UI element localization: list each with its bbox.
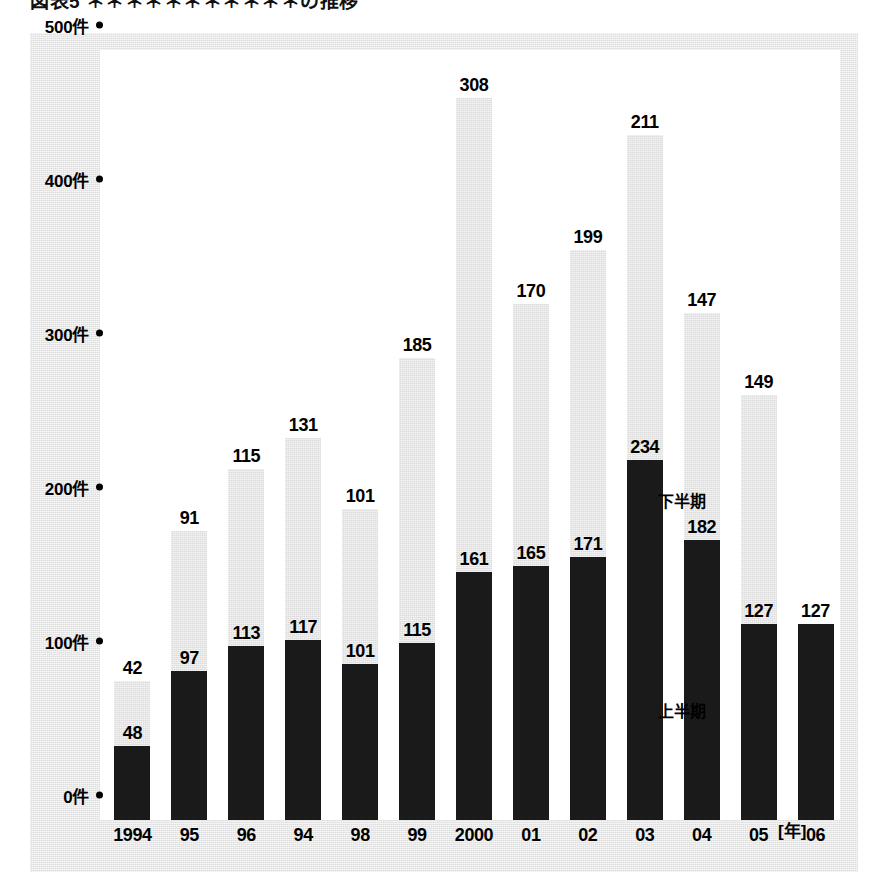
bar-segment-first-half[interactable]: 127	[741, 624, 777, 820]
y-axis-tick-label: 200件	[45, 475, 89, 500]
bar-segment-first-half[interactable]: 161	[456, 572, 492, 820]
bar-group[interactable]: 3081612000	[456, 98, 492, 820]
bar-group[interactable]: 10110198	[342, 509, 378, 820]
bar-value-second-half: 308	[460, 75, 489, 96]
bar-segment-second-half[interactable]: 211	[627, 135, 663, 460]
bar-segment-second-half[interactable]: 308	[456, 98, 492, 572]
bar-value-first-half: 127	[801, 601, 830, 622]
bar-value-first-half: 171	[573, 534, 602, 555]
x-axis-tick-label: 98	[351, 825, 370, 846]
bar-series-container: 4248199491979511511396131117941011019818…	[100, 50, 840, 820]
y-axis-tick: 200件	[45, 475, 100, 500]
chart-frame: 0件100件200件300件400件500件 42481994919795115…	[30, 33, 858, 872]
bar-group[interactable]: 17016501	[513, 304, 549, 820]
bar-group[interactable]: 42481994	[114, 681, 150, 820]
x-axis-tick-label: 95	[180, 825, 199, 846]
bar-segment-second-half[interactable]: 131	[285, 438, 321, 640]
bar-segment-first-half[interactable]: 113	[228, 646, 264, 820]
bar-value-second-half: 42	[123, 658, 142, 679]
x-axis-tick-label: 02	[578, 825, 597, 846]
x-axis-tick-label: 03	[635, 825, 654, 846]
y-axis-tick-label: 500件	[45, 13, 89, 38]
y-axis-tick-label: 100件	[45, 629, 89, 654]
bar-value-second-half: 199	[573, 227, 602, 248]
legend-label-second-half: 下半期	[658, 488, 706, 512]
x-axis-tick-label: 99	[407, 825, 426, 846]
x-axis-tick-label: 94	[294, 825, 313, 846]
bar-value-first-half: 161	[460, 549, 489, 570]
bar-group[interactable]: 12706	[798, 624, 834, 820]
bar-group[interactable]: 919795	[171, 530, 207, 820]
y-axis-tick-label: 0件	[63, 783, 89, 808]
bar-value-first-half: 113	[232, 623, 260, 644]
bar-value-second-half: 147	[687, 290, 716, 311]
bar-value-first-half: 182	[687, 517, 716, 538]
x-axis-unit-label: [年]	[778, 817, 806, 842]
bar-segment-first-half[interactable]: 101	[342, 664, 378, 820]
bar-segment-second-half[interactable]: 185	[399, 358, 435, 643]
bar-segment-second-half[interactable]: 170	[513, 304, 549, 566]
bar-group[interactable]: 13111794	[285, 438, 321, 820]
bar-value-first-half: 48	[123, 723, 142, 744]
bar-segment-first-half[interactable]: 117	[285, 640, 321, 820]
bar-group[interactable]: 19917102	[570, 250, 606, 820]
x-axis-tick-label: 96	[237, 825, 256, 846]
bar-group[interactable]: 11511396	[228, 469, 264, 820]
bar-value-second-half: 211	[631, 112, 659, 133]
bar-segment-first-half[interactable]: 182	[684, 540, 720, 820]
y-axis-tick: 400件	[45, 167, 100, 192]
bar-value-second-half: 170	[517, 281, 546, 302]
y-axis-tick: 0件	[63, 783, 100, 808]
bar-group[interactable]: 14912705	[741, 395, 777, 820]
bar-segment-first-half[interactable]: 234	[627, 460, 663, 820]
bar-group[interactable]: 18511599	[399, 358, 435, 820]
bar-value-second-half: 149	[744, 372, 773, 393]
bar-value-second-half: 91	[180, 508, 199, 529]
bar-group[interactable]: 14718204	[684, 313, 720, 820]
bar-segment-first-half[interactable]: 97	[171, 671, 207, 820]
y-axis-tick: 300件	[45, 321, 100, 346]
bar-value-first-half: 127	[744, 601, 773, 622]
x-axis-tick-label: 04	[692, 825, 711, 846]
bar-segment-first-half[interactable]: 165	[513, 566, 549, 820]
bar-segment-first-half[interactable]: 115	[399, 643, 435, 820]
x-axis-tick-label: 01	[521, 825, 540, 846]
bar-value-first-half: 97	[180, 648, 199, 669]
bar-value-second-half: 115	[232, 446, 260, 467]
y-axis-tick-label: 300件	[45, 321, 89, 346]
y-axis-tick: 500件	[45, 13, 100, 38]
x-axis-tick-label: 1994	[113, 825, 151, 846]
bar-segment-second-half[interactable]: 115	[228, 469, 264, 646]
x-axis-tick-label: 2000	[455, 825, 493, 846]
page-title: 図表5 ＊＊＊＊＊＊＊＊＊＊＊の推移	[30, 0, 550, 12]
x-axis-tick-label: 05	[749, 825, 768, 846]
bar-value-first-half: 115	[403, 620, 431, 641]
x-axis-tick-label: 06	[806, 825, 825, 846]
bar-value-second-half: 185	[403, 335, 432, 356]
bar-value-first-half: 234	[630, 437, 659, 458]
plot-area: 0件100件200件300件400件500件 42481994919795115…	[100, 50, 840, 820]
bar-segment-second-half[interactable]: 149	[741, 395, 777, 624]
y-axis-tick-label: 400件	[45, 167, 89, 192]
bar-segment-first-half[interactable]: 171	[570, 557, 606, 820]
bar-value-first-half: 101	[346, 641, 375, 662]
bar-value-second-half: 131	[289, 415, 318, 436]
bar-segment-second-half[interactable]: 199	[570, 250, 606, 556]
bar-value-second-half: 101	[346, 486, 375, 507]
legend-label-first-half: 上半期	[658, 698, 706, 722]
bar-value-first-half: 165	[517, 543, 546, 564]
y-axis-tick: 100件	[45, 629, 100, 654]
bar-segment-first-half[interactable]: 48	[114, 746, 150, 820]
bar-segment-first-half[interactable]: 127	[798, 624, 834, 820]
y-axis-tick-dot-icon	[96, 22, 103, 29]
bar-value-first-half: 117	[289, 617, 317, 638]
